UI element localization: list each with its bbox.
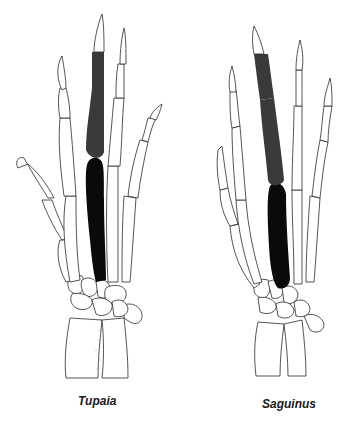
saguinus-middle-phalanx-iii xyxy=(254,54,274,100)
tupaia-proximal-phalanx-iii xyxy=(86,88,104,158)
hand-skeleton-comparison-figure: Tupaia Saguinus xyxy=(0,0,348,421)
tupaia-middle-phalanx-iii xyxy=(92,52,104,88)
saguinus-metacarpal-iii xyxy=(268,183,290,289)
tupaia-hand-skeleton xyxy=(0,0,174,380)
saguinus-label: Saguinus xyxy=(262,397,316,411)
tupaia-label: Tupaia xyxy=(78,394,116,408)
saguinus-proximal-phalanx-iii xyxy=(260,98,284,185)
tupaia-metacarpal-iii xyxy=(86,158,106,283)
saguinus-hand-skeleton xyxy=(174,0,348,380)
